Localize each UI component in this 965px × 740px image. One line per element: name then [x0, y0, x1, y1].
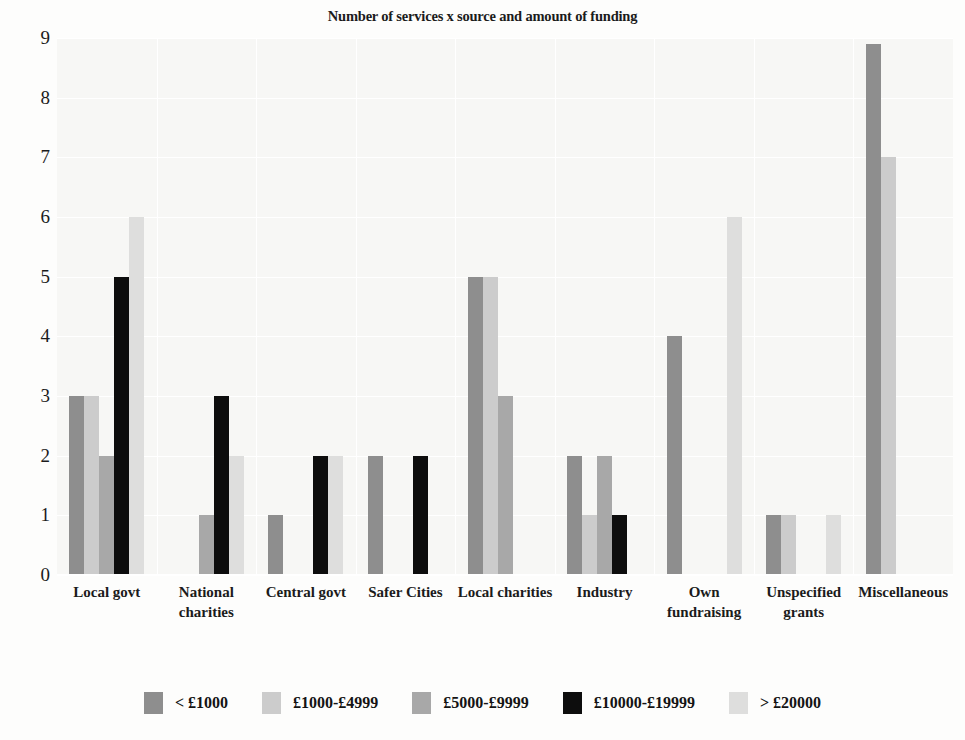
bar — [881, 157, 896, 575]
bar — [368, 456, 383, 575]
gridline-y-6 — [57, 217, 953, 218]
gridline-y-5 — [57, 277, 953, 278]
bar — [667, 336, 682, 575]
legend-item[interactable]: > £20000 — [729, 692, 821, 714]
bar — [129, 217, 144, 575]
y-tick-label-1: 1 — [4, 504, 50, 526]
gridline-x-3 — [356, 38, 357, 575]
bar — [229, 456, 244, 575]
bar — [84, 396, 99, 575]
legend-item[interactable]: £5000-£9999 — [412, 692, 528, 714]
legend-swatch-icon — [412, 692, 431, 714]
x-tick-label: Industry — [555, 582, 655, 602]
gridline-x-7 — [754, 38, 755, 575]
chart-legend: < £1000£1000-£4999£5000-£9999£10000-£199… — [0, 683, 965, 723]
gridline-x-1 — [157, 38, 158, 575]
legend-label: £1000-£4999 — [293, 694, 378, 712]
bar — [199, 515, 214, 575]
bar — [612, 515, 627, 575]
gridline-y-9 — [57, 38, 953, 39]
y-tick-label-7: 7 — [4, 146, 50, 168]
legend-label: £10000-£19999 — [594, 694, 695, 712]
legend-item[interactable]: £1000-£4999 — [262, 692, 378, 714]
legend-label: > £20000 — [760, 694, 821, 712]
x-tick-label: Safer Cities — [356, 582, 456, 602]
y-tick-label-5: 5 — [4, 266, 50, 288]
gridline-x-4 — [455, 38, 456, 575]
legend-swatch-icon — [262, 692, 281, 714]
y-tick-label-3: 3 — [4, 385, 50, 407]
y-tick-label-9: 9 — [4, 27, 50, 49]
bar — [413, 456, 428, 575]
gridline-x-8 — [853, 38, 854, 575]
bar — [268, 515, 283, 575]
x-tick-label: Central govt — [256, 582, 356, 602]
bar — [727, 217, 742, 575]
x-tick-label: National charities — [157, 582, 257, 622]
bar — [866, 44, 881, 575]
x-tick-label: Local govt — [57, 582, 157, 602]
bar — [567, 456, 582, 575]
bar — [781, 515, 796, 575]
chart-title: Number of services x source and amount o… — [0, 8, 965, 25]
bar — [69, 396, 84, 575]
x-tick-label: Miscellaneous — [853, 582, 953, 602]
legend-item[interactable]: £10000-£19999 — [563, 692, 695, 714]
bar — [766, 515, 781, 575]
bar — [582, 515, 597, 575]
bar — [468, 277, 483, 575]
bar — [214, 396, 229, 575]
x-axis-labels: Local govtNational charitiesCentral govt… — [57, 582, 953, 642]
bar — [483, 277, 498, 575]
legend-swatch-icon — [144, 692, 163, 714]
gridline-y-4 — [57, 336, 953, 337]
gridline-x-6 — [654, 38, 655, 575]
gridline-y-7 — [57, 157, 953, 158]
gridline-x-2 — [256, 38, 257, 575]
legend-swatch-icon — [563, 692, 582, 714]
plot-area — [57, 38, 953, 575]
bar — [498, 396, 513, 575]
bar — [328, 456, 343, 575]
bar — [99, 456, 114, 575]
legend-item[interactable]: < £1000 — [144, 692, 228, 714]
legend-swatch-icon — [729, 692, 748, 714]
gridline-y-8 — [57, 98, 953, 99]
legend-label: £5000-£9999 — [443, 694, 528, 712]
x-axis-baseline — [57, 574, 953, 576]
bar — [114, 277, 129, 575]
y-tick-label-6: 6 — [4, 206, 50, 228]
bar — [597, 456, 612, 575]
y-axis: 0123456789 — [0, 38, 50, 575]
x-tick-label: Own fundraising — [654, 582, 754, 622]
x-tick-label: Unspecified grants — [754, 582, 854, 622]
chart-container: Number of services x source and amount o… — [0, 0, 965, 740]
x-tick-label: Local charities — [455, 582, 555, 602]
y-tick-label-4: 4 — [4, 325, 50, 347]
y-tick-label-0: 0 — [4, 564, 50, 586]
y-tick-label-8: 8 — [4, 87, 50, 109]
legend-label: < £1000 — [175, 694, 228, 712]
bar — [313, 456, 328, 575]
bar — [826, 515, 841, 575]
gridline-x-5 — [555, 38, 556, 575]
y-tick-label-2: 2 — [4, 445, 50, 467]
